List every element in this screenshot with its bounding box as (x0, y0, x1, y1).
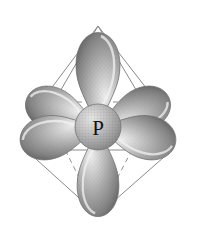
octahedral-orbital-svg: P (0, 0, 197, 237)
orbital-diagram-figure: P (0, 0, 197, 237)
central-atom: P (75, 104, 121, 150)
central-atom-label: P (92, 116, 104, 140)
